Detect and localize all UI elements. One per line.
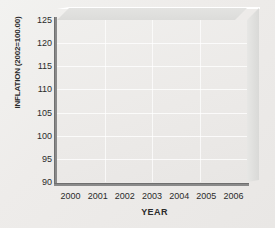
plot-area	[57, 20, 247, 182]
y-tick-label: 115	[26, 62, 52, 71]
y-axis-title: INFLATION (2002=100.00)	[13, 0, 22, 128]
chart-container: 1251201151101051009590 20002001200220032…	[0, 0, 275, 228]
y-tick-label: 95	[26, 155, 52, 164]
x-tick-label: 2001	[84, 191, 112, 202]
x-tick-label: 2005	[192, 191, 220, 202]
y-tick-label: 110	[26, 85, 52, 94]
y-tick-label: 90	[26, 178, 52, 187]
y-tick-label: 100	[26, 132, 52, 141]
y-tick-label: 120	[26, 39, 52, 48]
gridline-vertical	[105, 20, 106, 182]
x-tick-label: 2000	[57, 191, 85, 202]
x-tick-label: 2006	[219, 191, 247, 202]
x-tick-label: 2003	[138, 191, 166, 202]
x-axis-tick-labels: 2000200120022003200420052006	[57, 191, 252, 203]
gridline-vertical	[152, 20, 153, 182]
y-axis-tick-labels: 1251201151101051009590	[26, 13, 52, 183]
x-axis-line	[54, 183, 249, 186]
gridline-vertical	[200, 20, 201, 182]
x-tick-label: 2002	[111, 191, 139, 202]
chart-3d-top-face	[57, 8, 247, 20]
y-axis-line	[54, 17, 57, 185]
y-tick-label: 105	[26, 109, 52, 118]
y-tick-label: 125	[26, 16, 52, 25]
x-axis-title: YEAR	[57, 207, 252, 217]
x-tick-label: 2004	[165, 191, 193, 202]
chart-3d-right-face	[247, 8, 259, 182]
